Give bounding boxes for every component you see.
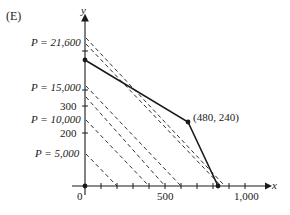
isoprofit-p10000 <box>86 120 149 186</box>
origin-label: 0 <box>77 191 83 202</box>
isoprofit-label-21600: P = 21,600 <box>31 37 81 48</box>
vertex-y-intercept <box>83 58 88 63</box>
x-axis-label: x <box>272 180 277 191</box>
isoprofit-p5000 <box>86 154 117 186</box>
y-tick-label-300: 300 <box>60 101 77 112</box>
feasible-boundary <box>85 60 218 186</box>
vertex-x-intercept <box>216 184 221 189</box>
isoprofit-label-10000: P = 10,000 <box>31 114 81 125</box>
isoprofit-p10000b <box>86 97 165 186</box>
isoprofit-label-15000: P = 15,000 <box>31 82 81 93</box>
panel-label: (E) <box>6 10 21 22</box>
chart-canvas <box>0 0 290 215</box>
y-tick-label-200: 200 <box>60 128 77 139</box>
vertex-optimum <box>186 120 191 125</box>
x-tick-label-1000: 1,000 <box>234 191 259 202</box>
vertex-origin <box>83 184 88 189</box>
y-axis-label: y <box>81 5 86 16</box>
isoprofit-label-5000: P = 5,000 <box>35 148 79 159</box>
x-tick-label-500: 500 <box>157 191 174 202</box>
isoprofit-p15000 <box>86 86 181 186</box>
optimum-point-label: (480, 240) <box>193 112 239 123</box>
